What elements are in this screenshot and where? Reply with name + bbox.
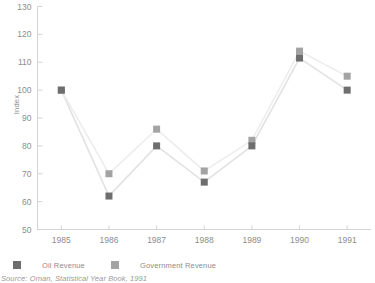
x-axis-tick-label: 1986 bbox=[100, 235, 119, 245]
y-axis-tick-label: 50 bbox=[22, 225, 32, 235]
data-point-marker bbox=[296, 55, 303, 62]
data-point-marker bbox=[201, 167, 208, 174]
legend-swatch-oil-revenue bbox=[13, 261, 21, 269]
x-axis-tick-label: 1987 bbox=[147, 235, 166, 245]
chart-legend: Oil Revenue Government Revenue bbox=[13, 258, 375, 272]
y-axis-title: Index bbox=[12, 85, 21, 125]
data-point-marker bbox=[58, 87, 65, 94]
x-axis-tick-label: 1989 bbox=[242, 235, 261, 245]
legend-label-oil-revenue: Oil Revenue bbox=[42, 261, 85, 270]
data-point-marker bbox=[105, 170, 112, 177]
chart-source-note: Source: Oman, Statistical Year Book, 199… bbox=[1, 274, 147, 283]
legend-item-government-revenue[interactable]: Government Revenue bbox=[111, 258, 216, 272]
x-axis-tick-label: 1985 bbox=[52, 235, 71, 245]
chart-plot-area: 5060708090100110120130198519861987198819… bbox=[0, 0, 375, 283]
series-line-1 bbox=[61, 51, 347, 174]
legend-label-government-revenue: Government Revenue bbox=[140, 261, 216, 270]
y-axis-tick-label: 120 bbox=[17, 29, 31, 39]
series-line-0 bbox=[61, 58, 347, 196]
y-axis-tick-label: 130 bbox=[17, 2, 31, 12]
y-axis-tick-label: 70 bbox=[22, 169, 32, 179]
legend-swatch-government-revenue bbox=[111, 261, 119, 269]
x-axis-tick-label: 1990 bbox=[290, 235, 309, 245]
revenue-index-line-chart: 5060708090100110120130198519861987198819… bbox=[0, 0, 375, 283]
data-point-marker bbox=[248, 142, 255, 149]
data-point-marker bbox=[153, 142, 160, 149]
legend-item-oil-revenue[interactable]: Oil Revenue bbox=[13, 258, 85, 272]
y-axis-tick-label: 80 bbox=[22, 141, 32, 151]
data-point-marker bbox=[344, 73, 351, 80]
data-point-marker bbox=[296, 48, 303, 55]
y-axis-tick-label: 60 bbox=[22, 197, 32, 207]
x-axis-tick-label: 1991 bbox=[338, 235, 357, 245]
y-axis-tick-label: 90 bbox=[22, 113, 32, 123]
data-point-marker bbox=[153, 126, 160, 133]
data-point-marker bbox=[201, 179, 208, 186]
data-point-marker bbox=[105, 193, 112, 200]
y-axis-tick-label: 110 bbox=[18, 57, 32, 67]
x-axis-tick-label: 1988 bbox=[195, 235, 214, 245]
data-point-marker bbox=[344, 87, 351, 94]
